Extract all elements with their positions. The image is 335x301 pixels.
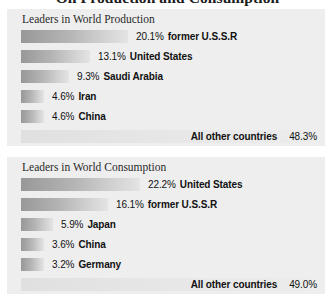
bar-row-label: 16.1%former U.S.S.R <box>116 198 217 211</box>
bar-category: Japan <box>87 219 115 230</box>
bar-category: United States <box>130 51 193 62</box>
bar-value: 3.2% <box>52 259 74 270</box>
panel-consumption: Leaders in World Consumption 22.2%United… <box>7 157 325 294</box>
bar-row-other: All other countries49.0% <box>7 277 325 293</box>
bar-row-label: 4.6%China <box>52 110 106 123</box>
panel-heading-consumption: Leaders in World Consumption <box>22 161 166 173</box>
bar-fill <box>21 178 140 191</box>
bar-row-other: All other countries48.3% <box>7 129 325 145</box>
bar-row-label: 13.1%United States <box>98 50 192 63</box>
bar-row: 20.1%former U.S.S.R <box>7 29 325 45</box>
bar-row-label: 3.6%China <box>52 238 106 251</box>
bar-fill <box>21 238 44 251</box>
bar-row-other-label: All other countries48.3% <box>191 130 317 143</box>
bar-value: 5.9% <box>61 219 83 230</box>
bar-row: 3.6%China <box>7 237 325 253</box>
bar-category: former U.S.S.R <box>168 31 237 42</box>
bar-row: 4.6%China <box>7 109 325 125</box>
bar-category: Germany <box>78 259 121 270</box>
bar-row: 9.3%Saudi Arabia <box>7 69 325 85</box>
bar-fill <box>21 70 69 83</box>
bar-fill <box>21 198 108 211</box>
panel-production: Leaders in World Production 20.1%former … <box>7 9 325 146</box>
bar-category: Iran <box>78 91 96 102</box>
bar-fill <box>21 110 44 123</box>
bar-category-other: All other countries <box>191 131 277 142</box>
bar-value: 22.2% <box>148 179 176 190</box>
bar-value: 16.1% <box>116 199 144 210</box>
bar-row: 4.6%Iran <box>7 89 325 105</box>
bar-row: 16.1%former U.S.S.R <box>7 197 325 213</box>
bar-fill <box>21 30 128 43</box>
bar-row-label: 20.1%former U.S.S.R <box>136 30 237 43</box>
bar-value: 20.1% <box>136 31 164 42</box>
bar-value-other: 49.0% <box>289 279 317 290</box>
bar-value-other: 48.3% <box>289 131 317 142</box>
bar-category: Saudi Arabia <box>103 71 163 82</box>
bar-fill <box>21 258 44 271</box>
bar-value: 9.3% <box>77 71 99 82</box>
bar-rows-production: 20.1%former U.S.S.R 13.1%United States 9… <box>7 29 325 149</box>
bar-value: 4.6% <box>52 91 74 102</box>
bar-fill <box>21 218 53 231</box>
bar-row-label: 22.2%United States <box>148 178 242 191</box>
bar-row: 22.2%United States <box>7 177 325 193</box>
bar-row: 3.2%Germany <box>7 257 325 273</box>
bar-row-label: 4.6%Iran <box>52 90 96 103</box>
bar-category: China <box>78 111 105 122</box>
bar-fill <box>21 50 90 63</box>
bar-category: China <box>78 239 105 250</box>
bar-value: 13.1% <box>98 51 126 62</box>
bar-row-other-label: All other countries49.0% <box>191 278 317 291</box>
bar-row: 13.1%United States <box>7 49 325 65</box>
bar-value: 4.6% <box>52 111 74 122</box>
bar-row-label: 9.3%Saudi Arabia <box>77 70 163 83</box>
bar-fill <box>21 90 44 103</box>
panel-heading-production: Leaders in World Production <box>22 13 155 25</box>
bar-rows-consumption: 22.2%United States 16.1%former U.S.S.R 5… <box>7 177 325 297</box>
bar-category: former U.S.S.R <box>148 199 217 210</box>
bar-value: 3.6% <box>52 239 74 250</box>
chart-title: Oil Production and Consumption <box>0 0 335 7</box>
bar-row-label: 3.2%Germany <box>52 258 121 271</box>
bar-category: United States <box>180 179 243 190</box>
bar-row-label: 5.9%Japan <box>61 218 116 231</box>
bar-category-other: All other countries <box>191 279 277 290</box>
bar-row: 5.9%Japan <box>7 217 325 233</box>
